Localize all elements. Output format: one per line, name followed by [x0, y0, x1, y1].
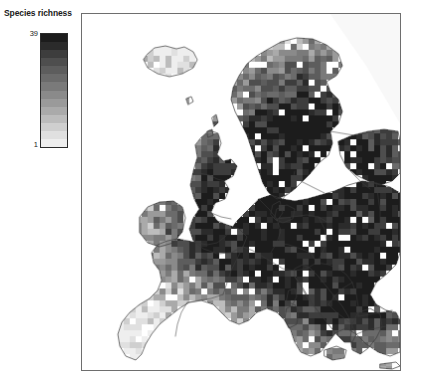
legend-swatch-7 [41, 91, 67, 99]
legend-min-label: 1 [0, 140, 38, 149]
figure-root: Species richness 39 1 [0, 0, 421, 387]
legend: Species richness 39 1 [4, 8, 80, 153]
legend-swatch-6 [41, 82, 67, 90]
legend-title: Species richness [4, 8, 72, 18]
legend-swatch-4 [41, 66, 67, 74]
legend-swatch-10 [41, 115, 67, 123]
legend-swatch-11 [41, 123, 67, 131]
legend-swatch-8 [41, 99, 67, 107]
species-richness-map [82, 14, 400, 370]
legend-swatch-1 [41, 42, 67, 50]
map-panel [81, 13, 401, 371]
legend-swatch-13 [41, 139, 67, 147]
legend-max-label: 39 [0, 29, 38, 38]
legend-swatch-9 [41, 107, 67, 115]
legend-swatch-0 [41, 34, 67, 42]
legend-swatch-12 [41, 131, 67, 139]
legend-swatch-3 [41, 58, 67, 66]
legend-swatch-5 [41, 74, 67, 82]
legend-colorbar [40, 33, 68, 148]
legend-swatch-2 [41, 50, 67, 58]
